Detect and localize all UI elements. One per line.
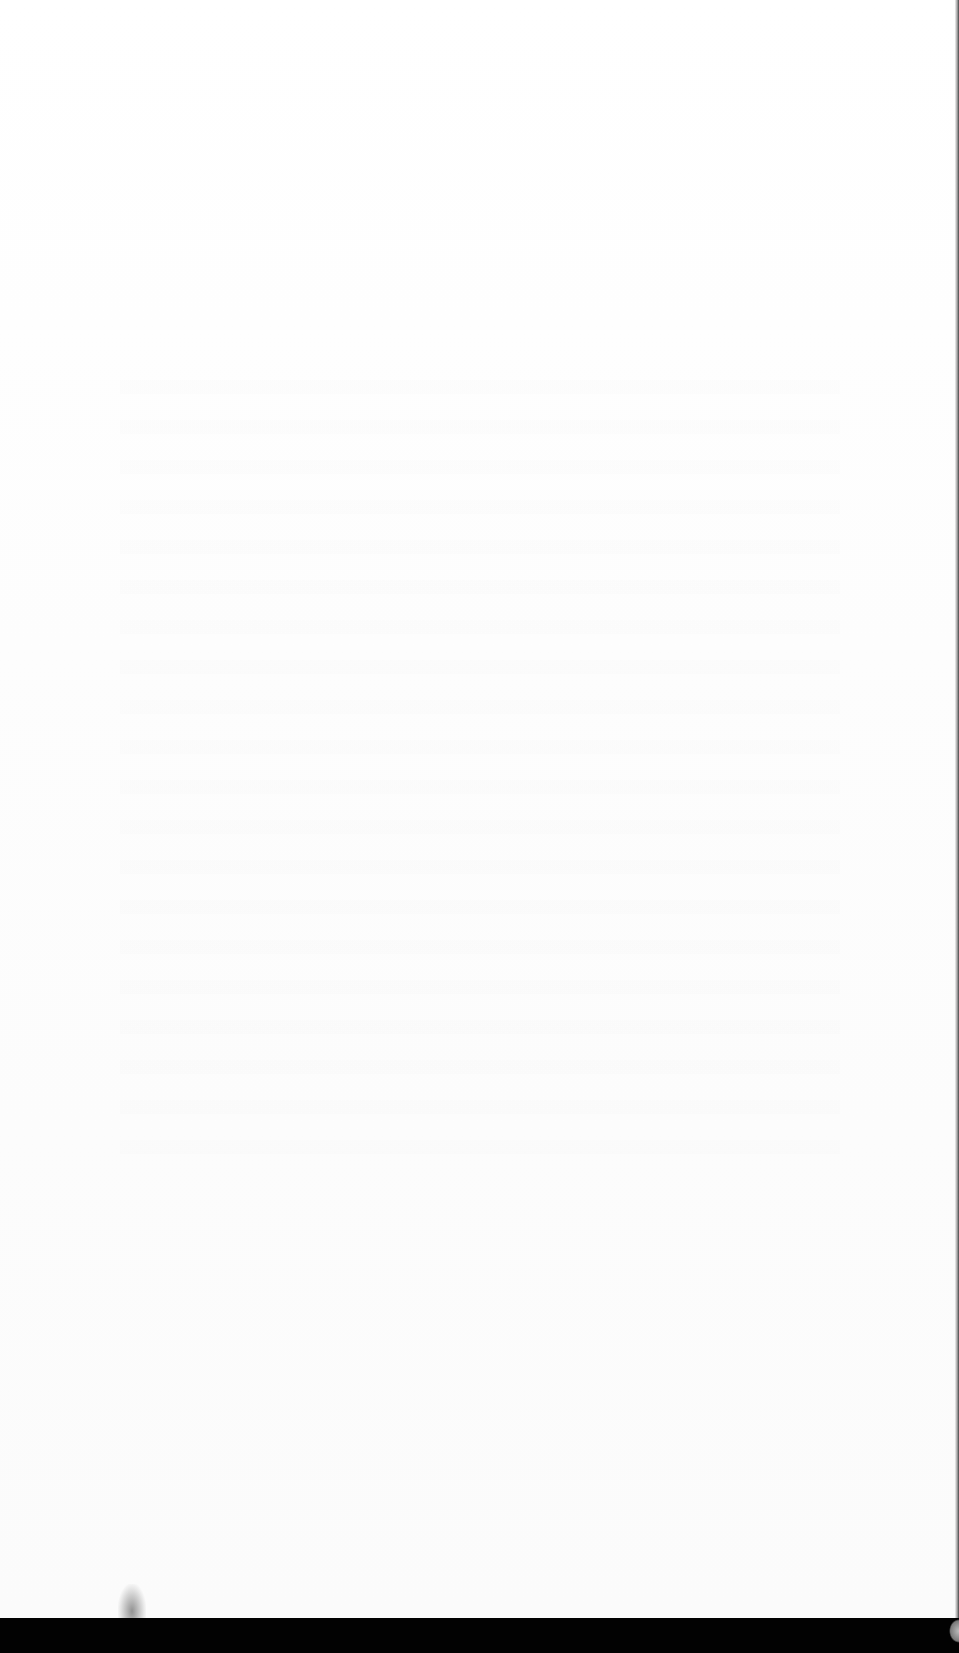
blank-scanned-page [0, 0, 955, 1618]
bleed-through-shadow [120, 380, 840, 1180]
page-edge [955, 0, 959, 1618]
scanner-bed-strip [0, 1618, 959, 1653]
ink-smudge [118, 1584, 146, 1618]
page-corner-curl [949, 1619, 959, 1643]
